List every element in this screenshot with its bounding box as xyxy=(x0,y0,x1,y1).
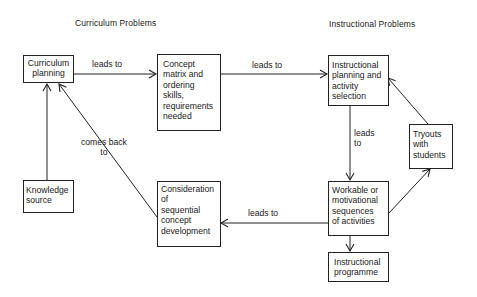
arrow-tr-to-ip xyxy=(388,78,428,124)
node-instructional-planning: Instructional planning and activity sele… xyxy=(328,55,389,106)
node-curriculum-planning: Curriculum planning xyxy=(23,55,74,83)
node-workable: Workable or motivational sequences of ac… xyxy=(328,181,389,236)
edge-label-cp-to-cm: leads to xyxy=(92,59,122,69)
edge-label-cm-to-ip: leads to xyxy=(252,60,282,70)
edge-label-wk-to-cs: leads to xyxy=(248,208,278,218)
node-instructional-programme: Instructional programme xyxy=(328,252,389,282)
node-knowledge-source: Knowledge source xyxy=(23,180,74,213)
node-tryouts: Tryouts with students xyxy=(409,124,453,169)
node-consideration: Consideration of sequential concept deve… xyxy=(157,181,221,247)
arrow-wk-to-tr xyxy=(389,169,430,213)
edge-label-cs-to-cp: comes back to xyxy=(81,137,127,158)
edge-label-ip-to-wk: leads to xyxy=(354,128,375,149)
connector-arrows xyxy=(0,0,477,297)
node-concept-matrix: Concept matrix and ordering skills, requ… xyxy=(157,54,221,131)
